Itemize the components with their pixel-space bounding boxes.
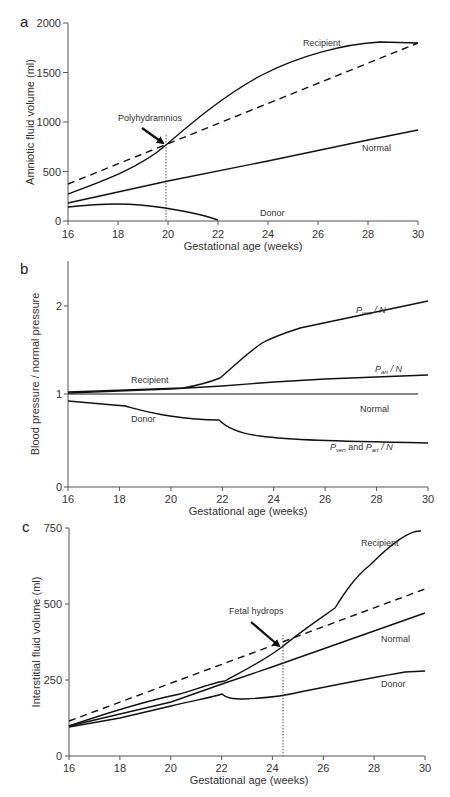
x-tick-label: 30 [422,493,434,505]
y-tick-label: 500 [43,166,61,178]
y-ticks-a: 0 500 1000 1500 2000 [37,17,68,227]
panel-a: a 0 500 1000 1500 2000 16 18 20 [20,13,424,252]
normal-label-c: Normal [381,634,410,644]
donor-label-b: Donor [131,414,156,424]
y-tick-label: 2 [56,300,62,312]
donor-line-a [68,204,218,220]
x-tick-label: 16 [63,762,75,774]
recipient-label-c: Recipient [361,538,399,548]
x-tick-label: 30 [412,228,424,240]
y-tick-label: 1500 [37,67,61,79]
x-axis-title-a: Gestational age (weeks) [184,240,303,252]
fetal-hydrops-arrow [251,622,279,646]
y-tick-label: 0 [55,215,61,227]
x-tick-label: 28 [368,762,380,774]
x-tick-label: 18 [113,493,125,505]
x-tick-label: 20 [165,762,177,774]
x-tick-label: 22 [215,762,227,774]
donor-label-a: Donor [260,208,285,218]
recipient-label-b: Recipient [131,375,169,385]
x-tick-label: 16 [62,228,74,240]
donor-label-c: Donor [381,679,406,689]
panel-letter-c: c [22,518,30,535]
y-tick-label: 0 [56,481,62,493]
panel-b: b 0 1 2 16 18 20 22 24 26 28 [20,260,434,517]
x-tick-label: 24 [262,228,274,240]
y-tick-label: 250 [44,674,62,686]
y-axis-title-c: Interstitial fluid volume (ml) [30,577,42,708]
x-axis-title-b: Gestational age (weeks) [189,505,308,517]
x-tick-label: 28 [362,228,374,240]
x-axis-title-c: Gestational age (weeks) [190,774,309,786]
x-tick-label: 26 [319,493,331,505]
fetal-hydrops-label: Fetal hydrops [229,606,284,616]
part-recipient-line [68,375,428,393]
y-tick-label: 2000 [37,17,61,29]
y-tick-label: 0 [56,750,62,762]
panel-letter-b: b [20,260,28,277]
x-tick-label: 26 [312,228,324,240]
x-tick-label: 30 [419,762,431,774]
y-tick-label: 500 [44,598,62,610]
normal-label-b: Normal [360,404,389,414]
x-ticks-b: 16 18 20 22 24 26 28 30 [62,487,434,505]
x-tick-label: 16 [62,493,74,505]
x-tick-label: 24 [268,493,280,505]
y-tick-label: 750 [44,522,62,534]
x-tick-label: 28 [370,493,382,505]
normal-label-a: Normal [362,143,391,153]
polyhydramnios-arrow [142,128,163,143]
x-tick-label: 20 [165,493,177,505]
recipient-line-c [69,531,421,726]
figure-canvas: a 0 500 1000 1500 2000 16 18 20 [0,0,450,797]
polyhydramnios-label: Polyhydramnios [118,113,183,123]
x-ticks-a: 16 18 20 22 24 26 28 30 [62,221,424,240]
y-ticks-c: 0 250 500 750 [44,522,69,762]
x-tick-label: 18 [112,228,124,240]
y-tick-label: 1000 [37,116,61,128]
y-tick-label: 1 [56,388,62,400]
panel-c: c 0 250 500 750 16 18 20 22 24 [22,518,431,786]
x-tick-label: 26 [317,762,329,774]
donor-line-c [69,671,425,727]
y-axis-title-b: Blood pressure / normal pressure [29,293,41,456]
y-axis-title-a: Amniotic fluid volume (ml) [24,59,36,185]
pven-and-part-n-label: Pven and Part / N [330,442,393,453]
pven-n-label: Pven / N [356,305,386,316]
part-n-label: Part / N [375,364,403,375]
y-ticks-b: 0 1 2 [56,300,68,493]
panel-letter-a: a [20,13,29,30]
recipient-label-a: Recipient [303,38,341,48]
x-tick-label: 20 [162,228,174,240]
x-tick-label: 24 [266,762,278,774]
x-tick-label: 22 [212,228,224,240]
x-tick-label: 22 [216,493,228,505]
normal-line-a [68,130,418,203]
x-tick-label: 18 [114,762,126,774]
x-ticks-c: 16 18 20 22 24 26 28 30 [63,756,431,774]
